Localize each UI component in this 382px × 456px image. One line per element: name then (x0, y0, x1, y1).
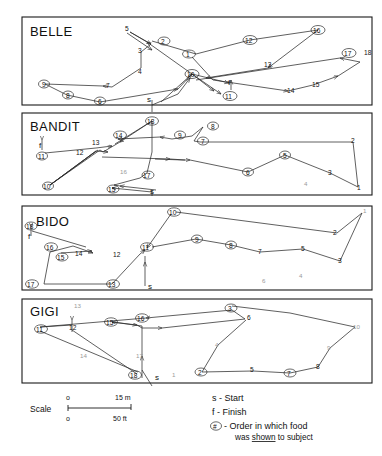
legend-start: s - Start (212, 393, 244, 403)
node-label: 8 (229, 242, 233, 249)
legend-finish: f - Finish (212, 407, 247, 417)
node-label: 12 (113, 251, 121, 258)
scale-label: Scale (30, 404, 52, 414)
node-label: 9 (195, 236, 199, 243)
node-label: 6 (98, 98, 102, 105)
node-label: 18 (147, 118, 155, 125)
legend-order-shown: shown (252, 433, 276, 442)
scale-top-zero: o (66, 394, 70, 401)
node-label: 14 (287, 87, 295, 94)
order-symbol-text: # (213, 423, 217, 430)
node-label: 4 (304, 180, 308, 187)
node-label: 12 (245, 37, 253, 44)
node-label: 3 (328, 169, 332, 176)
node-label: 17 (344, 50, 352, 57)
node-label: 15 (108, 186, 116, 193)
node-label: 15 (57, 254, 65, 261)
start-marker-belle: s (147, 95, 151, 104)
scale-bottom-zero: o (66, 415, 70, 422)
node-label: 1 (172, 371, 176, 378)
start-marker-bido: s (148, 282, 152, 291)
node-label: 5 (250, 366, 254, 373)
node-label: 16 (313, 27, 321, 34)
scale-top-value: 15 m (115, 394, 131, 401)
panel-bandit-title: BANDIT (30, 119, 80, 134)
node-label: 9 (327, 344, 331, 351)
node-label: 10 (187, 71, 195, 78)
legend-order-line2: was shown to subject (234, 433, 314, 442)
node-label: 2 (198, 369, 202, 376)
node-label: 4 (299, 272, 303, 279)
node-label: 18 (364, 49, 372, 56)
panel-gigi-title: GIGI (30, 304, 59, 319)
node-label: 5 (125, 25, 129, 32)
node-label: 13 (74, 302, 81, 309)
node-label: 3 (138, 47, 142, 54)
node-label: 13 (264, 61, 272, 68)
node-label: 16 (46, 244, 54, 251)
figure-root: BELLE (0, 0, 382, 456)
node-label: 17 (27, 281, 35, 288)
node-label: 11 (142, 244, 149, 251)
node-label: 8 (316, 363, 320, 370)
node-label: 17 (143, 172, 151, 179)
node-label: 12 (69, 324, 77, 331)
node-label: 13 (92, 139, 100, 146)
node-label: 2 (351, 137, 355, 144)
node-label: 7 (201, 138, 205, 145)
panel-belle-title: BELLE (30, 24, 72, 39)
node-label: 10 (43, 183, 51, 190)
node-label: 15 (106, 319, 114, 326)
node-label: 17 (136, 352, 143, 359)
node-label: 7 (106, 82, 110, 89)
node-label: 10 (353, 323, 360, 330)
panel-bido-title: BIDO (36, 214, 69, 229)
node-label: 11 (225, 93, 232, 100)
node-label: 1 (363, 207, 367, 214)
node-label: 6 (262, 277, 266, 284)
start-marker-gigi: s (155, 373, 159, 382)
node-label: 16 (120, 168, 127, 175)
node-label: 4 (138, 68, 142, 75)
node-label: 15 (312, 81, 320, 88)
node-label: 11 (36, 326, 43, 333)
node-label: 11 (38, 153, 45, 160)
node-label: 1 (186, 51, 190, 58)
node-label: 5 (283, 152, 287, 159)
scale-bottom-value: 50 ft (113, 415, 127, 422)
node-label: 9 (42, 81, 46, 88)
node-label: 12 (76, 149, 84, 156)
legend-order-line1: - Order in which food (224, 421, 308, 431)
node-label: 4 (215, 341, 219, 348)
node-label: 2 (333, 229, 337, 236)
node-label: 14 (80, 352, 87, 359)
node-label: 10 (169, 209, 177, 216)
node-label: 9 (178, 132, 182, 139)
legend-order-was: was (234, 433, 252, 442)
node-label: 1 (357, 184, 361, 191)
node-label: 2 (161, 38, 165, 45)
node-label: 16 (137, 315, 145, 322)
node-label: 7 (287, 370, 291, 377)
node-label: 18 (130, 372, 138, 379)
node-label: 14 (75, 250, 83, 257)
node-label: 13 (108, 281, 116, 288)
legend-order-tosubject: to subject (276, 433, 314, 442)
node-label: 14 (115, 132, 123, 139)
route-figure: BELLE (0, 0, 382, 456)
node-label: 6 (247, 314, 251, 321)
node-label: 5 (301, 245, 305, 252)
node-label: 6 (246, 169, 250, 176)
start-marker-bandit: s (150, 187, 154, 196)
node-label: 7 (258, 248, 262, 255)
node-label: 8 (66, 92, 70, 99)
node-label: 18 (26, 223, 34, 230)
node-label: 3 (338, 257, 342, 264)
node-label: 8 (211, 123, 215, 130)
node-label: 3 (228, 305, 232, 312)
